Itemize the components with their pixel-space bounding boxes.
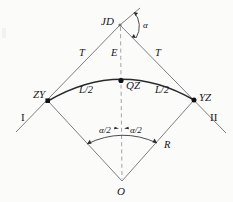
point-marker-jd — [118, 23, 121, 26]
label-angle-deflection: α — [143, 21, 148, 30]
deflection-angle-arc — [134, 12, 139, 38]
curve-geometry-figure: JD α T E T ZY L/2 QZ L/2 YZ I II α/2 α/2… — [0, 0, 233, 202]
label-radius: R — [164, 140, 170, 151]
point-marker-qz — [118, 78, 123, 83]
label-curve-right-half: L/2 — [155, 85, 169, 96]
radius-line-left — [48, 101, 122, 181]
central-arc-arrow-right — [152, 139, 157, 143]
center-axis-dashed-line — [121, 27, 123, 179]
central-arc-arrow-inner-right — [124, 127, 129, 130]
label-point-zy: ZY — [33, 89, 45, 100]
label-point-qz: QZ — [126, 80, 140, 91]
label-point-yz: YZ — [199, 92, 211, 103]
label-external-distance: E — [111, 48, 117, 59]
radius-line-right — [122, 100, 194, 181]
label-tangent-line-one: I — [21, 112, 25, 123]
label-curve-left-half: L/2 — [79, 85, 93, 96]
label-point-jd: JD — [101, 16, 114, 27]
point-marker-yz — [192, 98, 197, 103]
label-tangent-left: T — [79, 48, 85, 59]
label-tangent-right: T — [155, 48, 161, 59]
deflection-arc-arrow-bottom — [132, 34, 136, 38]
label-point-o: O — [117, 186, 125, 197]
central-arc-arrow-inner-left — [114, 127, 119, 130]
tangent-line-left — [16, 25, 120, 132]
point-marker-zy — [45, 98, 50, 103]
label-tangent-line-two: II — [210, 112, 217, 123]
label-angle-half-left: α/2 — [99, 126, 111, 135]
label-angle-half-right: α/2 — [130, 126, 142, 135]
